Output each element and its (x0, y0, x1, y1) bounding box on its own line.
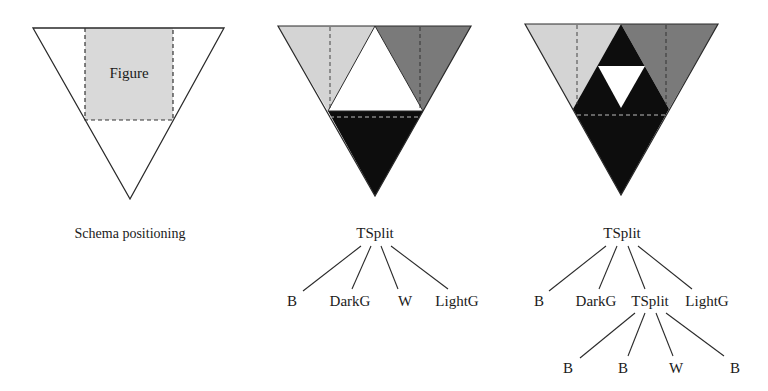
black-subtriangle (328, 111, 423, 196)
tree-subroot-node: TSplit (631, 294, 669, 309)
schema-caption: Schema positioning (75, 227, 186, 241)
tree-leaf-node: W (398, 294, 412, 309)
figure-label: Figure (109, 66, 148, 81)
panel-schema-positioning (33, 28, 224, 199)
tree-leaf-node: B (534, 294, 544, 309)
tree-leaf-node: LightG (685, 294, 728, 309)
tree-leaf-node: DarkG (330, 294, 371, 309)
tree-root-node: TSplit (356, 226, 394, 241)
tree-root-node: TSplit (603, 226, 641, 241)
diagram-canvas (0, 0, 768, 391)
tree-edges-panel2 (303, 246, 448, 291)
tree-leaf-node: LightG (435, 294, 478, 309)
tree-leaf-node: B (563, 361, 573, 376)
tree-leaf-node: DarkG (576, 294, 617, 309)
tree-leaf-node: B (287, 294, 297, 309)
tree-leaf-node: B (618, 361, 628, 376)
black-subtriangle (573, 109, 669, 195)
tree-leaf-node: W (669, 361, 683, 376)
panel-tsplit-simple (278, 26, 471, 196)
tree-leaf-node: B (730, 361, 740, 376)
panel-tsplit-nested (525, 24, 718, 195)
